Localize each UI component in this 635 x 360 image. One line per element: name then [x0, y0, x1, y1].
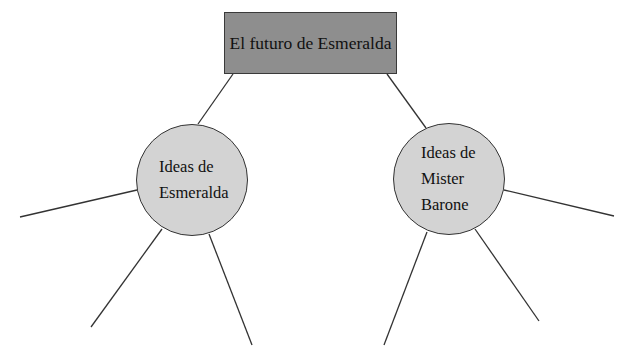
- node-label-line: Ideas de: [421, 140, 476, 166]
- connector-root-to-right: [387, 74, 426, 128]
- branch-left-3: [209, 234, 252, 345]
- root-node: El futuro de Esmeralda: [224, 12, 397, 74]
- node-label-line: Barone: [421, 192, 476, 218]
- root-node-label: El futuro de Esmeralda: [230, 33, 392, 54]
- node-label-line: Ideas de: [159, 154, 229, 180]
- branch-right-1: [504, 190, 614, 216]
- connector-root-to-left: [198, 74, 233, 124]
- branch-left-1: [20, 190, 137, 217]
- branch-right-2: [384, 232, 427, 345]
- branch-right-3: [475, 229, 539, 321]
- child-node-esmeralda: Ideas de Esmeralda: [136, 124, 248, 236]
- node-label-line: Mister: [421, 166, 476, 192]
- node-label-line: Esmeralda: [159, 180, 229, 206]
- branch-left-2: [91, 229, 162, 327]
- child-node-mister-barone: Ideas de Mister Barone: [393, 123, 505, 235]
